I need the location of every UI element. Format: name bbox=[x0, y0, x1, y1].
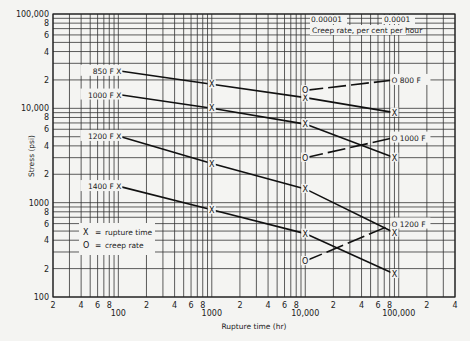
x-tick-label: 2 bbox=[331, 301, 336, 310]
creep-tick-0: 0.00001 bbox=[311, 15, 342, 24]
x-tick-label: 6 bbox=[189, 301, 194, 310]
creep-axis-label: Creep rate, per cent per hour bbox=[312, 26, 423, 35]
legend-symbol-rupture: X bbox=[83, 228, 89, 237]
x-tick-label: 100 bbox=[111, 309, 126, 318]
series-label-rupture: 850 F X bbox=[93, 67, 122, 76]
y-tick-label: 4 bbox=[44, 142, 49, 151]
y-tick-label: 1000 bbox=[29, 199, 49, 208]
y-tick-label: 4 bbox=[44, 48, 49, 57]
legend: X = rupture time O = creep rate bbox=[79, 223, 155, 255]
rupture-point: X bbox=[209, 160, 215, 169]
x-tick-label: 2 bbox=[237, 301, 242, 310]
legend-text-rupture: rupture time bbox=[105, 228, 153, 237]
legend-text-creep: creep rate bbox=[105, 241, 144, 250]
x-tick-label: 2 bbox=[424, 301, 429, 310]
y-tick-label: 100 bbox=[34, 293, 49, 302]
x-tick-label: 6 bbox=[282, 301, 287, 310]
rupture-point: X bbox=[209, 104, 215, 113]
x-tick-label: 1000 bbox=[202, 309, 222, 318]
y-tick-label: 2 bbox=[44, 265, 49, 274]
y-tick-label: 6 bbox=[44, 125, 49, 134]
x-tick-label: 4 bbox=[359, 301, 364, 310]
series-label-creep: O 1200 F bbox=[391, 220, 425, 229]
rupture-point: X bbox=[209, 80, 215, 89]
x-tick-label: 6 bbox=[375, 301, 380, 310]
creep-point: O bbox=[302, 86, 308, 95]
y-tick-label: 100,000 bbox=[16, 10, 49, 19]
y-tick-label: 2 bbox=[44, 170, 49, 179]
creep-tick-1: 0.0001 bbox=[384, 15, 410, 24]
x-tick-label: 100,000 bbox=[382, 309, 415, 318]
y-tick-label: 2 bbox=[44, 76, 49, 85]
x-tick-label: 4 bbox=[79, 301, 84, 310]
rupture-point: X bbox=[392, 154, 398, 163]
rupture-point: X bbox=[392, 109, 398, 118]
series-label-creep: O 1000 F bbox=[391, 134, 425, 143]
x-tick-label: 2 bbox=[144, 301, 149, 310]
legend-equals: = bbox=[95, 228, 101, 237]
x-axis-label: Rupture time (hr) bbox=[221, 322, 286, 331]
y-tick-label: 8 bbox=[44, 208, 49, 217]
rupture-point: X bbox=[392, 229, 398, 238]
rupture-point: X bbox=[303, 185, 309, 194]
x-tick-label: 6 bbox=[95, 301, 100, 310]
rupture-point: X bbox=[209, 206, 215, 215]
series-label-rupture: 1200 F X bbox=[88, 132, 121, 141]
creep-point: O bbox=[302, 154, 308, 163]
y-axis-label: Stress (psi) bbox=[27, 135, 36, 177]
rupture-point: X bbox=[392, 270, 398, 279]
y-tick-label: 8 bbox=[44, 19, 49, 28]
y-tick-label: 10,000 bbox=[21, 104, 49, 113]
series-label-rupture: 1000 F X bbox=[88, 91, 121, 100]
y-tick-label: 8 bbox=[44, 113, 49, 122]
creep-point: O bbox=[302, 257, 308, 266]
rupture-point: X bbox=[303, 230, 309, 239]
y-tick-label: 6 bbox=[44, 220, 49, 229]
x-tick-label: 2 bbox=[50, 301, 55, 310]
series: XXXXXXXXXXXXOOOOOO bbox=[118, 71, 398, 279]
x-tick-label: 10,000 bbox=[291, 309, 319, 318]
series-label-rupture: 1400 F X bbox=[88, 182, 121, 191]
legend-symbol-creep: O bbox=[83, 241, 89, 250]
y-tick-label: 4 bbox=[44, 236, 49, 245]
x-tick-label: 4 bbox=[452, 301, 457, 310]
creep-rupture-chart: 246810024681000246810,0002468100,0002410… bbox=[0, 0, 470, 341]
legend-equals: = bbox=[95, 241, 101, 250]
x-tick-label: 4 bbox=[266, 301, 271, 310]
y-tick-label: 6 bbox=[44, 31, 49, 40]
x-tick-label: 4 bbox=[172, 301, 177, 310]
rupture-point: X bbox=[303, 120, 309, 129]
series-label-creep: O 800 F bbox=[391, 76, 420, 85]
